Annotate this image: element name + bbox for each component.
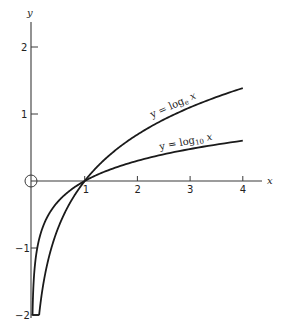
curve-log-e (39, 88, 243, 315)
svg-text:y = loge x: y = loge x (147, 90, 198, 122)
x-tick-label: 2 (134, 184, 140, 195)
y-axis-label: y (26, 7, 33, 18)
x-axis-label: x (267, 175, 273, 186)
x-tick-label: 4 (240, 184, 246, 195)
log-curves-chart: y x 1234 21−1−2 y = loge x y = log10 x (0, 0, 289, 334)
x-tick-label: 1 (83, 184, 89, 195)
y-tick-label: −2 (15, 310, 30, 321)
y-tick-label: 2 (21, 42, 27, 53)
y-tick-label: 1 (21, 109, 27, 120)
y-tick-label: −1 (15, 243, 30, 254)
x-ticks: 1234 (83, 176, 246, 195)
curve-log-10 (33, 141, 243, 315)
label-log-e: y = loge x (147, 90, 198, 122)
x-tick-label: 3 (187, 184, 193, 195)
